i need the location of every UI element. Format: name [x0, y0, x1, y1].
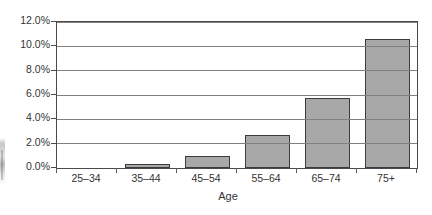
y-axis: 0.0%2.0%4.0%6.0%8.0%10.0%12.0% [0, 0, 50, 215]
y-axis-tick-mark [51, 21, 56, 22]
bar [185, 156, 230, 168]
x-axis-tick-mark [236, 168, 237, 173]
x-axis-title-label: Age [218, 190, 238, 202]
bar-chart: 0.0%2.0%4.0%6.0%8.0%10.0%12.0% Age 25–34… [0, 0, 432, 215]
x-axis-tick-label: 45–54 [176, 172, 236, 184]
gridline [57, 22, 417, 23]
x-axis-tick-label: 55–64 [236, 172, 296, 184]
y-axis-tick-mark [51, 70, 56, 71]
x-axis-tick-label: 35–44 [116, 172, 176, 184]
x-axis-tick-mark [416, 168, 417, 173]
bar [305, 98, 350, 168]
x-axis-title: Age [0, 190, 432, 202]
y-axis-tick-mark [51, 94, 56, 95]
y-axis-tick-mark [51, 118, 56, 119]
x-axis-tick-mark [176, 168, 177, 173]
x-axis-tick-mark [56, 168, 57, 173]
y-axis-tick-label: 10.0% [2, 39, 50, 50]
plot-area [56, 21, 418, 169]
x-axis-tick-label: 25–34 [56, 172, 116, 184]
gridline [57, 46, 417, 47]
x-axis-tick-mark [116, 168, 117, 173]
y-axis-tick-label: 4.0% [2, 112, 50, 123]
bar [365, 39, 410, 168]
y-axis-tick-label: 8.0% [2, 64, 50, 75]
gridline [57, 95, 417, 96]
y-axis-tick-mark [51, 143, 56, 144]
x-axis-tick-mark [356, 168, 357, 173]
y-axis-tick-label: 12.0% [2, 15, 50, 26]
y-axis-tick-mark [51, 45, 56, 46]
y-axis-tick-label: 6.0% [2, 88, 50, 99]
x-axis-tick-mark [296, 168, 297, 173]
gridline [57, 119, 417, 120]
x-axis-tick-label: 75+ [356, 172, 416, 184]
bar [245, 135, 290, 168]
bar [125, 164, 170, 168]
gridline [57, 143, 417, 144]
x-axis-tick-label: 65–74 [296, 172, 356, 184]
gridline [57, 70, 417, 71]
y-axis-tick-label: 2.0% [2, 137, 50, 148]
y-axis-tick-label: 0.0% [2, 161, 50, 172]
